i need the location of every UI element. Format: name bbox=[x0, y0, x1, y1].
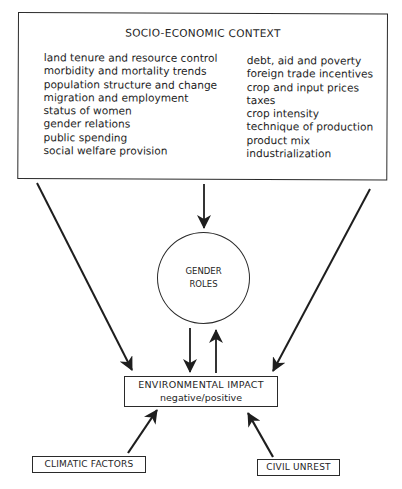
context-item: crop intensity bbox=[247, 107, 374, 121]
civil-unrest-box: CIVIL UNREST bbox=[257, 459, 340, 476]
context-left-list: land tenure and resource control morbidi… bbox=[43, 51, 217, 158]
civil-unrest-label: CIVIL UNREST bbox=[266, 462, 331, 472]
arrow-context-to-impact-right bbox=[273, 189, 370, 371]
context-item: crop and input prices bbox=[247, 81, 374, 95]
context-item: population structure and change bbox=[44, 78, 218, 92]
context-item: morbidity and mortality trends bbox=[44, 64, 218, 78]
context-item: debt, aid and poverty bbox=[247, 54, 374, 68]
context-item: land tenure and resource control bbox=[44, 51, 218, 65]
gender-roles-node: GENDER ROLES bbox=[157, 232, 250, 324]
context-item: taxes bbox=[247, 94, 374, 108]
environmental-impact-title: ENVIRONMENTAL IMPACT bbox=[125, 379, 277, 392]
arrow-civil-unrest-to-impact bbox=[248, 413, 273, 457]
context-item: migration and employment bbox=[44, 91, 218, 105]
environmental-impact-subtitle: negative/positive bbox=[125, 392, 277, 405]
context-right-list: debt, aid and poverty foreign trade ince… bbox=[246, 54, 373, 161]
context-title: SOCIO-ECONOMIC CONTEXT bbox=[19, 26, 387, 40]
context-item: gender relations bbox=[43, 118, 217, 132]
context-item: industrialization bbox=[246, 147, 373, 161]
context-item: public spending bbox=[43, 131, 217, 145]
arrow-context-to-impact-left bbox=[37, 183, 132, 370]
socio-economic-context-box: SOCIO-ECONOMIC CONTEXT land tenure and r… bbox=[17, 12, 388, 181]
context-item: foreign trade incentives bbox=[247, 67, 374, 81]
gender-roles-line1: GENDER bbox=[185, 265, 221, 278]
arrow-climatic-to-impact bbox=[128, 410, 157, 453]
context-item: product mix bbox=[246, 134, 373, 148]
context-item: technique of production bbox=[246, 120, 373, 134]
gender-roles-line2: ROLES bbox=[185, 278, 221, 291]
environmental-impact-box: ENVIRONMENTAL IMPACT negative/positive bbox=[124, 376, 278, 407]
context-item: social welfare provision bbox=[43, 144, 217, 158]
climatic-factors-box: CLIMATIC FACTORS bbox=[32, 456, 146, 473]
climatic-factors-label: CLIMATIC FACTORS bbox=[45, 459, 134, 469]
context-item: status of women bbox=[44, 104, 218, 118]
